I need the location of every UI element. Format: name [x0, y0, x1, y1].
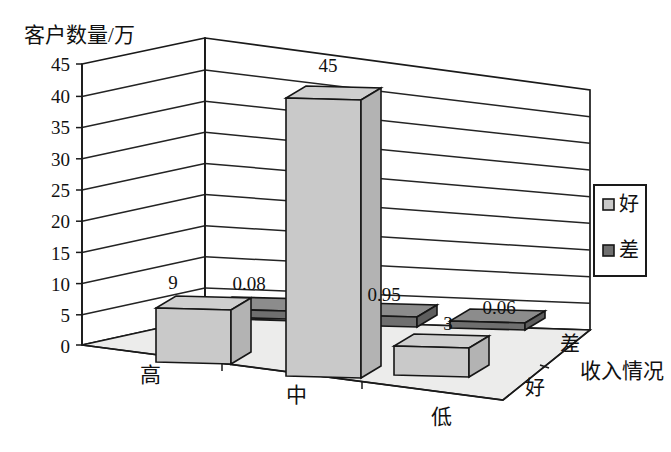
value-label-bad-zhong: 0.95 — [367, 284, 400, 305]
y-tick-label: 25 — [51, 180, 70, 201]
value-label-good-zhong: 45 — [319, 55, 338, 76]
x-category-label-di: 低 — [431, 405, 452, 429]
z-category-label-hao: 好 — [525, 377, 545, 399]
bar-gao-good[interactable] — [156, 296, 251, 364]
y-tick-label: 15 — [51, 243, 70, 264]
y-tick-label: 20 — [51, 211, 70, 232]
y-tick-label: 30 — [51, 149, 70, 170]
bar-di-good[interactable] — [394, 334, 489, 377]
bar-chart-3d: 45 40 35 30 25 20 15 10 5 0 客户数量/万 — [0, 0, 671, 452]
value-label-bad-gao: 0.08 — [232, 273, 265, 294]
y-tick-label: 0 — [61, 336, 71, 357]
bar-zhong-good[interactable] — [286, 86, 381, 378]
legend-swatch-good — [603, 199, 614, 210]
x-category-label-gao: 高 — [140, 363, 161, 387]
value-label-bad-di: 0.06 — [482, 297, 515, 318]
legend-label-bad: 差 — [619, 239, 639, 261]
legend-swatch-bad — [603, 245, 614, 256]
value-label-good-gao: 9 — [168, 272, 178, 293]
y-axis-title: 客户数量/万 — [24, 23, 135, 47]
y-tick-label: 10 — [51, 274, 70, 295]
y-tick-label: 40 — [51, 86, 70, 107]
chart-container: 45 40 35 30 25 20 15 10 5 0 客户数量/万 — [0, 0, 671, 452]
value-label-good-di: 3 — [443, 313, 453, 334]
z-category-label-cha: 差 — [560, 333, 580, 355]
y-tick-label: 35 — [51, 117, 70, 138]
legend-label-good: 好 — [619, 193, 639, 215]
legend: 好 差 — [594, 185, 646, 276]
z-axis-title: 收入情况 — [580, 359, 664, 383]
x-category-label-zhong: 中 — [286, 383, 307, 407]
y-axis-ticks — [76, 64, 82, 345]
y-tick-labels: 45 40 35 30 25 20 15 10 5 0 — [51, 54, 70, 357]
y-tick-label: 5 — [61, 305, 71, 326]
y-tick-label: 45 — [51, 54, 70, 75]
